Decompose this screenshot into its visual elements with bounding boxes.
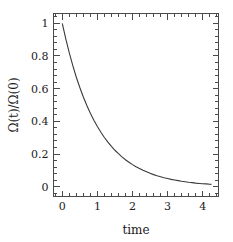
x-tick-label: 0 <box>59 200 66 213</box>
chart-figure: 01234 00.20.40.60.81 time Ω(t)/Ω(0) <box>0 0 233 242</box>
x-tick-label: 2 <box>129 200 136 213</box>
x-tick-label: 3 <box>164 200 171 213</box>
x-axis-title: time <box>122 223 149 237</box>
x-tick-label: 1 <box>94 200 101 213</box>
y-tick-label: 0.4 <box>31 115 49 128</box>
y-tick-label: 0 <box>42 181 49 194</box>
y-tick-label: 0.8 <box>31 50 49 63</box>
y-tick-label: 1 <box>42 17 49 30</box>
y-tick-label: 0.2 <box>31 148 49 161</box>
y-axis-title: Ω(t)/Ω(0) <box>7 77 21 132</box>
y-tick-label: 0.6 <box>31 83 49 96</box>
x-tick-label: 4 <box>199 200 206 213</box>
exponential-decay-plot: 01234 00.20.40.60.81 time Ω(t)/Ω(0) <box>0 0 233 242</box>
